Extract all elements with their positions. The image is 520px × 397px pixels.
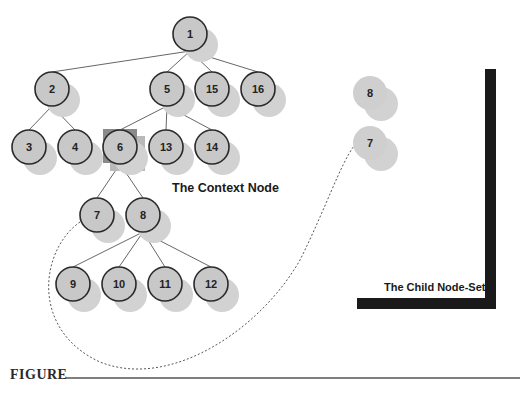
figure-label: FIGURE [10,367,67,382]
tree-edge [29,106,52,130]
tree-edge [52,51,190,72]
node-label: 10 [113,278,125,290]
node-label: 9 [70,278,76,290]
node-label: 14 [206,141,219,153]
child-node-set-nodes: 87 [353,76,398,171]
tree-node-7: 7 [353,126,398,171]
node-label: 4 [72,141,79,153]
node-label: 3 [26,141,32,153]
tree-node-3: 3 [12,130,57,175]
node-label: 8 [140,209,146,221]
tree-nodes: 12515163461314789101112 [12,17,286,312]
tree-node-13: 13 [149,130,194,175]
child-node-set-caption: The Child Node-Set [384,281,486,293]
tree-edge [120,106,167,130]
tree-node-15: 15 [195,72,240,117]
tree-node-14: 14 [195,130,240,175]
tree-node-10: 10 [102,267,147,312]
tree-node-1: 1 [173,17,218,62]
node-label: 7 [367,137,373,149]
child-set-bracket-vertical [485,69,496,309]
tree-node-4: 4 [58,130,103,175]
tree-edge [119,232,143,267]
tree-node-5: 5 [150,72,195,117]
node-label: 5 [164,83,170,95]
tree-node-9: 9 [56,267,101,312]
tree-node-2: 2 [35,72,80,117]
tree-node-8: 8 [126,198,171,243]
context-node-caption: The Context Node [172,181,279,195]
node-label: 1 [187,28,193,40]
dotted-connector-curve [49,146,354,369]
node-label: 8 [367,87,373,99]
tree-node-11: 11 [148,267,193,312]
xpath-child-axis-diagram: 12515163461314789101112 87 The Context N… [0,0,520,397]
tree-node-12: 12 [194,267,239,312]
tree-node-16: 16 [241,72,286,117]
node-label: 12 [205,278,217,290]
node-label: 11 [159,278,171,290]
node-label: 15 [206,83,218,95]
tree-node-8: 8 [353,76,398,121]
node-label: 7 [94,209,100,221]
child-set-bracket-horizontal [357,298,496,309]
node-label: 16 [252,83,264,95]
node-label: 2 [49,83,55,95]
node-label: 6 [117,141,123,153]
node-label: 13 [160,141,172,153]
tree-node-7: 7 [80,198,125,243]
